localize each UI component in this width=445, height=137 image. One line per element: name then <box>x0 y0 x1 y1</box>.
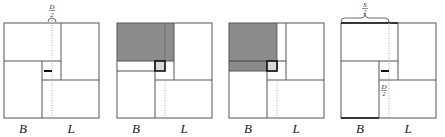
side-label-numerator: D <box>380 83 386 91</box>
label-b: B <box>132 121 140 136</box>
top-label-denominator: 2 <box>364 9 367 15</box>
label-b: B <box>19 121 27 136</box>
panel-1: D 2 B L <box>4 3 99 136</box>
label-l: L <box>66 121 74 136</box>
top-label-numerator: D <box>48 3 54 11</box>
side-label-denominator: 2 <box>383 91 386 97</box>
panel-3: B L <box>229 23 324 136</box>
top-label-numerator: S <box>363 1 367 9</box>
label-l: L <box>403 121 411 136</box>
label-l: L <box>291 121 299 136</box>
top-label-denominator: 2 <box>51 12 54 18</box>
label-b: B <box>356 121 364 136</box>
panel-2: B L <box>117 23 212 136</box>
label-b: B <box>244 121 252 136</box>
pinwheel-diagram-figure: D 2 B L B L B L <box>0 0 445 137</box>
label-l: L <box>179 121 187 136</box>
panel-4: S 2 D 2 B L <box>341 1 436 136</box>
